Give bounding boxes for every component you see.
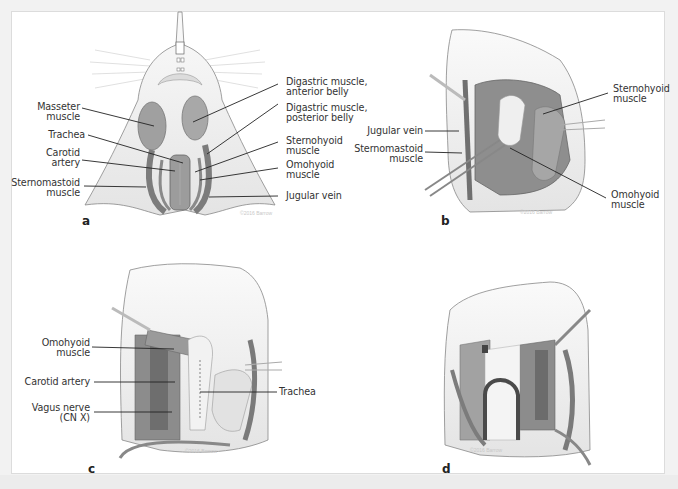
label-jugular-vein-b: Jugular vein [367, 126, 423, 136]
svg-text:©2016 Barrow: ©2016 Barrow [185, 448, 217, 454]
svg-text:©2016 Barrow: ©2016 Barrow [240, 210, 272, 216]
panel-letter-d: d [442, 462, 451, 476]
label-line: muscle [286, 146, 343, 156]
label-trachea-c: Trachea [279, 387, 316, 397]
panel-letter-b: b [441, 214, 450, 228]
label-line: muscle [42, 348, 90, 358]
label-sternohyoid-b: Sternohyoid muscle [613, 84, 670, 105]
label-line: anterior belly [286, 87, 367, 97]
label-sternomastoid-muscle-b: Sternomastoid muscle [354, 144, 423, 165]
label-line: artery [46, 158, 80, 168]
panel-d-illustration: ©2016 Barrow [444, 282, 590, 465]
panel-c-illustration: ©2016 Barrow [112, 264, 282, 458]
label-carotid-artery-c: Carotid artery [25, 377, 90, 387]
svg-text:©2016 Barrow: ©2016 Barrow [470, 447, 502, 453]
label-line: Carotid artery [25, 377, 90, 387]
panel-letter-c: c [88, 462, 95, 476]
label-sternomastoid-muscle-a: Sternomastoid muscle [11, 178, 80, 199]
label-omohyoid-c: Omohyoid muscle [42, 338, 90, 359]
label-line: muscle [11, 188, 80, 198]
label-line: posterior belly [286, 113, 367, 123]
label-trachea-a: Trachea [48, 130, 85, 140]
label-digastric-anterior: Digastric muscle, anterior belly [286, 77, 367, 98]
label-masseter-muscle: Masseter muscle [37, 102, 80, 123]
label-digastric-posterior: Digastric muscle, posterior belly [286, 103, 367, 124]
label-omohyoid-b: Omohyoid muscle [611, 190, 659, 211]
panel-b-illustration: ©2016 Barrow [425, 30, 605, 215]
panel-a-illustration: ©2016 Barrow [85, 12, 275, 216]
label-sternohyoid-a: Sternohyoid muscle [286, 136, 343, 157]
label-vagus-nerve: Vagus nerve (CN X) [32, 403, 90, 424]
label-line: muscle [37, 112, 80, 122]
label-line: muscle [613, 94, 670, 104]
anatomical-illustrations: ©2016 Barrow ©2016 Barrow ©2016 Barrow [0, 0, 678, 489]
label-line: (CN X) [32, 413, 90, 423]
label-line: Jugular vein [367, 126, 423, 136]
label-line: Trachea [279, 387, 316, 397]
label-jugular-vein-a: Jugular vein [286, 191, 342, 201]
label-line: muscle [354, 154, 423, 164]
label-line: Jugular vein [286, 191, 342, 201]
panel-letter-a: a [82, 214, 90, 228]
label-omohyoid-a: Omohyoid muscle [286, 160, 334, 181]
svg-text:©2016 Barrow: ©2016 Barrow [520, 209, 552, 215]
label-line: Trachea [48, 130, 85, 140]
label-line: muscle [286, 170, 334, 180]
label-carotid-artery-a: Carotid artery [46, 148, 80, 169]
label-line: muscle [611, 200, 659, 210]
